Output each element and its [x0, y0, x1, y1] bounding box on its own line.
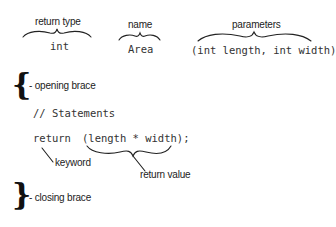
return-type-brace-icon: [23, 29, 91, 37]
return-value-leader-line: [133, 156, 145, 171]
keyword-leader-line: [42, 148, 53, 162]
return-value-brace-icon: [87, 146, 171, 156]
name-brace-icon: [119, 33, 160, 40]
parameters-brace-icon: [198, 32, 311, 41]
